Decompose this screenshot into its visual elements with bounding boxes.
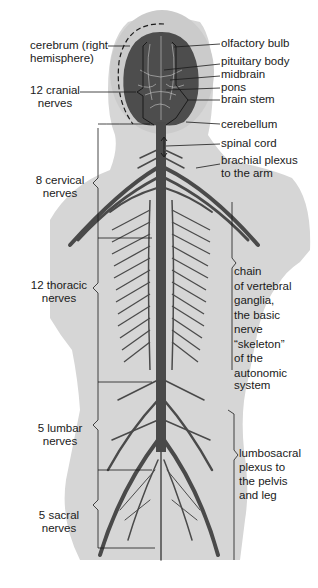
label-cranial-nerves: 12 cranial nerves bbox=[30, 84, 80, 110]
label-brachial-plexus: brachial plexus to the arm bbox=[221, 154, 298, 180]
label-midbrain: midbrain bbox=[221, 68, 265, 81]
label-cerebrum: cerebrum (right hemisphere) bbox=[30, 39, 108, 65]
label-spinal-cord: spinal cord bbox=[221, 137, 277, 150]
label-sacral-nerves: 5 sacral nerves bbox=[28, 509, 90, 535]
label-cervical-nerves: 8 cervical nerves bbox=[30, 174, 90, 200]
label-ganglia-chain: chain of vertebral ganglia, the basic ne… bbox=[234, 264, 292, 393]
label-lumbosacral-plexus: lumbosacral plexus to the pelvis and leg bbox=[239, 446, 301, 502]
label-lumbar-nerves: 5 lumbar nerves bbox=[30, 422, 90, 448]
label-olfactory-bulb: olfactory bulb bbox=[221, 37, 289, 50]
label-thoracic-nerves: 12 thoracic nerves bbox=[28, 279, 90, 305]
label-pituitary-body: pituitary body bbox=[221, 55, 289, 68]
spinal-cord bbox=[156, 122, 166, 452]
label-brain-stem: brain stem bbox=[221, 93, 275, 106]
label-cerebellum: cerebellum bbox=[221, 118, 277, 131]
